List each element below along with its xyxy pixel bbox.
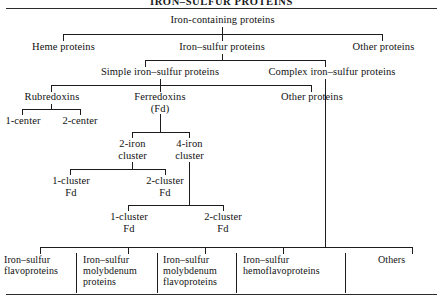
connector-bottom-tick-1 <box>40 247 41 254</box>
node-4iron-2-cluster-fd: 2-cluster Fd <box>199 211 247 234</box>
figure-title: IRON–SULFUR PROTEINS <box>0 0 443 7</box>
connector-ferredoxins-bar <box>132 132 189 133</box>
node-iron-sulfur-molybdenum-flavoproteins: Iron–sulfur molybdenum flavoproteins <box>163 254 237 287</box>
connector-bottom-tick-2 <box>128 247 129 254</box>
node-ferredoxins: Ferredoxins (Fd) <box>122 91 198 114</box>
connector-rubredoxins-bar <box>22 109 80 110</box>
bottom-rule <box>6 294 437 295</box>
node-2iron-2-cluster-fd: 2-cluster Fd <box>141 175 189 198</box>
node-iron-sulfur-molybdenum-proteins: Iron–sulfur molybdenum proteins <box>83 254 155 287</box>
node-2-center: 2-center <box>58 115 102 127</box>
connector-4iron-bar <box>128 205 223 206</box>
node-2-iron-cluster: 2-iron cluster <box>110 138 155 161</box>
divider-bottom-2 <box>157 253 158 293</box>
node-simple-iron-sulfur-proteins: Simple iron–sulfur proteins <box>90 66 230 78</box>
node-1-center: 1-center <box>1 115 45 127</box>
node-iron-sulfur-hemoflavoproteins: Iron–sulfur hemoflavoproteins <box>243 254 343 276</box>
connector-bottom-tick-5 <box>412 247 413 254</box>
divider-bottom-4 <box>345 253 346 293</box>
divider-bottom-1 <box>76 253 77 293</box>
connector-2iron-bar <box>70 169 165 170</box>
connector-level2-mid-tick <box>222 34 223 41</box>
connector-bottom-tick-3 <box>205 247 206 254</box>
node-4iron-1-cluster-fd: 1-cluster Fd <box>105 211 153 234</box>
connector-ferredoxins-stem <box>160 114 161 133</box>
node-others: Others <box>378 254 433 265</box>
node-rubredoxins: Rubredoxins <box>14 91 90 103</box>
node-heme-proteins: Heme proteins <box>16 41 111 53</box>
node-iron-sulfur-flavoproteins: Iron–sulfur flavoproteins <box>4 254 74 276</box>
node-iron-sulfur-proteins: Iron–sulfur proteins <box>166 41 278 53</box>
node-other-proteins-level4: Other proteins <box>267 91 357 103</box>
connector-level2-left-tick <box>63 34 64 41</box>
iron-sulfur-proteins-taxonomy-diagram: IRON–SULFUR PROTEINS Iron-containing pro… <box>0 0 443 304</box>
top-rule <box>6 8 437 9</box>
connector-level3-bar <box>145 60 326 61</box>
node-complex-iron-sulfur-proteins: Complex iron–sulfur proteins <box>258 66 406 78</box>
connector-4iron-stem <box>189 162 190 206</box>
node-2iron-1-cluster-fd: 1-cluster Fd <box>47 175 95 198</box>
connector-level2-right-tick <box>382 34 383 41</box>
connector-level4-bar <box>51 85 311 86</box>
connector-complex-trunk <box>325 79 326 247</box>
node-4-iron-cluster: 4-iron cluster <box>167 138 212 161</box>
connector-complex-children-bar <box>40 247 413 248</box>
node-other-proteins-level2: Other proteins <box>336 41 431 53</box>
node-iron-containing-proteins: Iron-containing proteins <box>150 14 295 26</box>
connector-bottom-tick-4 <box>283 247 284 254</box>
